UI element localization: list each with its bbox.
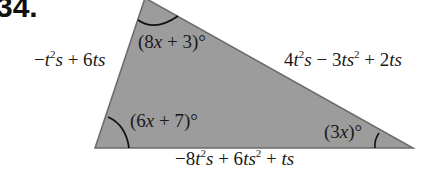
angle-label-top: (8x + 3)° bbox=[138, 31, 206, 53]
side-label-bottom: −8t2s + 6ts2 + ts bbox=[175, 148, 294, 170]
angle-label-bottom-left: (6x + 7)° bbox=[130, 110, 198, 132]
side-label-left: −t2s + 6ts bbox=[34, 49, 105, 71]
side-label-right: 4t2s − 3ts2 + 2ts bbox=[284, 49, 402, 71]
angle-label-bottom-right: (3x)° bbox=[324, 121, 362, 143]
